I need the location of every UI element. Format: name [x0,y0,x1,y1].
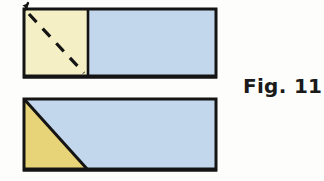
lower-rectangle-group [23,99,217,170]
blue-rectangle-region [88,9,216,77]
upper-rectangle-group [23,3,218,77]
figure-container: Fig. 11 [0,0,324,181]
figure-caption: Fig. 11 [243,76,322,96]
